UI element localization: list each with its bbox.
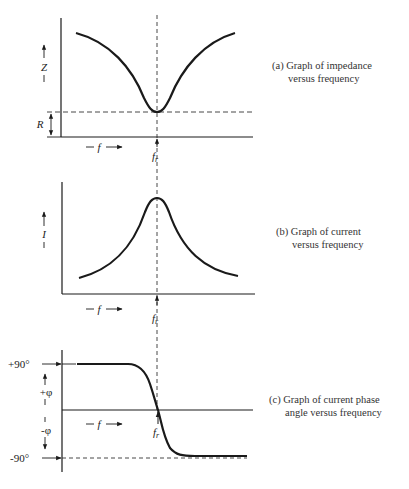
caption-b-line1: (b) Graph of current [276, 226, 361, 237]
caption-b-line2: versus frequency [276, 238, 363, 251]
caption-b: (b) Graph of current versus frequency [276, 225, 363, 251]
x-axis-label: f [97, 141, 102, 153]
x-axis-label: f [97, 418, 102, 430]
y-axis-label: I [41, 228, 47, 240]
panel-c-phase: +90° -90° +φ -φ f fr [8, 350, 253, 472]
positive-phase-label: +φ [40, 386, 53, 398]
x-axis-label: f [97, 303, 102, 315]
panel-b-current: I f fr [41, 182, 255, 326]
resonance-label: fr [152, 150, 159, 164]
reference-label: R [36, 118, 44, 130]
current-curve [79, 198, 238, 278]
resonance-label: fr [152, 312, 159, 326]
panel-a-impedance: Z R f fr [36, 18, 253, 164]
upper-tick-label: +90° [8, 358, 30, 370]
caption-c-line1: (c) Graph of current phase [269, 394, 380, 405]
caption-a-line1: (a) Graph of impedance [272, 60, 372, 71]
negative-phase-label: -φ [41, 424, 51, 436]
lower-tick-label: -90° [10, 452, 29, 464]
caption-c-line2: angle versus frequency [269, 406, 382, 419]
resonance-label: fr [153, 426, 160, 440]
y-axis-label: Z [41, 61, 48, 73]
caption-c: (c) Graph of current phase angle versus … [269, 393, 382, 419]
caption-a-line2: versus frequency [272, 72, 372, 85]
caption-a: (a) Graph of impedance versus frequency [272, 59, 372, 85]
impedance-curve [76, 33, 235, 112]
